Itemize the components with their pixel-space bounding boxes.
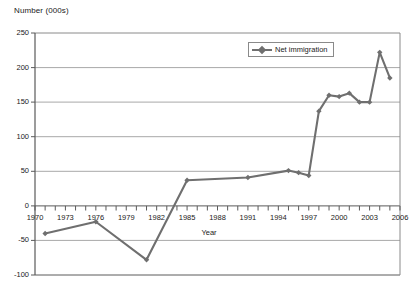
y-tick-label: 250 — [0, 29, 29, 37]
x-tick-label: 2000 — [331, 214, 348, 222]
data-point-marker — [286, 168, 291, 173]
x-tick-label: 1991 — [240, 214, 257, 222]
data-point-marker — [306, 173, 311, 178]
x-tick-label: 1982 — [148, 214, 165, 222]
data-point-marker — [336, 94, 341, 99]
x-tick-label: 1985 — [179, 214, 196, 222]
x-tick-label: 1997 — [300, 214, 317, 222]
plot-area-svg — [0, 0, 419, 296]
x-tick-label: 2003 — [361, 214, 378, 222]
y-tick-label: 150 — [0, 98, 29, 106]
x-tick-label: 1976 — [87, 214, 104, 222]
series-line-net-immigration — [45, 52, 390, 259]
legend-label-net-immigration: Net immigration — [275, 45, 328, 54]
chart-legend[interactable]: Net immigration — [248, 42, 334, 57]
chart-container: Number (000s) — [0, 0, 419, 296]
axis-lines — [35, 33, 400, 275]
x-tick-label: 1970 — [27, 214, 44, 222]
y-tick-label: 50 — [0, 167, 29, 175]
y-tick-label: 200 — [0, 64, 29, 72]
legend-marker-icon — [252, 45, 272, 54]
gridlines — [35, 33, 400, 275]
x-axis-title: Year — [201, 228, 216, 237]
x-tick-label: 1973 — [57, 214, 74, 222]
series-markers-net-immigration — [42, 50, 392, 263]
x-tick-label: 1979 — [118, 214, 135, 222]
data-point-marker — [387, 75, 392, 80]
y-tick-label: 0 — [0, 202, 29, 210]
y-tick-label: -50 — [0, 236, 29, 244]
x-axis-ticks — [35, 206, 400, 211]
data-point-marker — [245, 175, 250, 180]
data-point-marker — [367, 99, 372, 104]
y-tick-label: 100 — [0, 133, 29, 141]
y-tick-label: -100 — [0, 271, 29, 279]
x-tick-label: 1988 — [209, 214, 226, 222]
x-tick-label: 1994 — [270, 214, 287, 222]
data-point-marker — [42, 231, 47, 236]
x-tick-label: 2006 — [392, 214, 409, 222]
data-point-marker — [296, 170, 301, 175]
data-point-marker — [377, 50, 382, 55]
